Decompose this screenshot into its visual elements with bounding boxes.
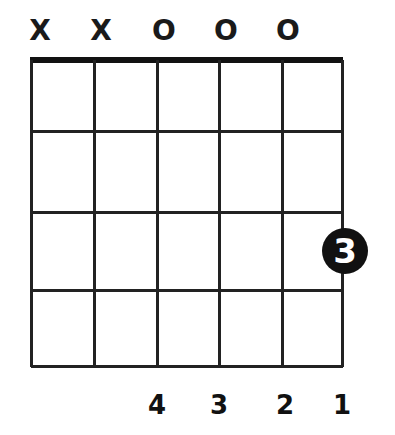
fret-line	[31, 211, 343, 214]
nut	[30, 57, 343, 63]
string-2-open-marker: O	[273, 14, 303, 48]
finger-dot: 3	[322, 228, 368, 274]
fret-line	[31, 130, 343, 133]
fret-line	[31, 365, 343, 368]
string-3-open-marker: O	[211, 14, 241, 48]
fret-line	[31, 289, 343, 292]
finger-label: 1	[327, 390, 357, 420]
string-4-open-marker: O	[149, 14, 179, 48]
finger-label: 2	[270, 390, 300, 420]
finger-label: 4	[142, 390, 172, 420]
finger-label: 3	[204, 390, 234, 420]
string-5-muted-marker: X	[86, 14, 116, 48]
string-6-muted-marker: X	[25, 14, 55, 48]
